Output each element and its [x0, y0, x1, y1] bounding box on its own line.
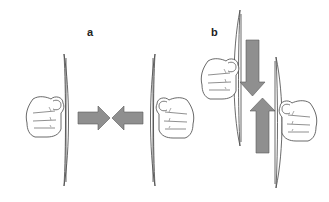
panel-b — [201, 10, 317, 188]
diagram-canvas — [0, 0, 329, 202]
arrow-up-icon — [250, 98, 275, 153]
arrow-right-icon — [78, 106, 110, 130]
fist-icon — [279, 101, 317, 141]
fist-icon — [26, 97, 64, 137]
fist-icon — [156, 98, 194, 138]
arrow-down-icon — [240, 40, 265, 96]
panel-a — [26, 54, 194, 186]
disc-lower — [276, 57, 282, 188]
fist-icon — [201, 59, 239, 99]
arrow-left-icon — [112, 106, 143, 130]
